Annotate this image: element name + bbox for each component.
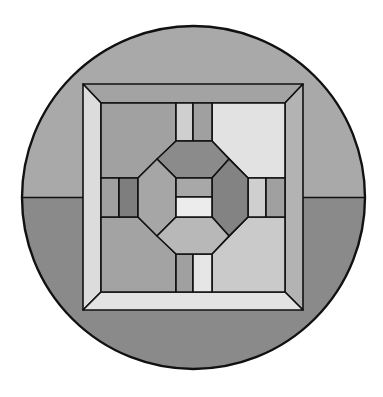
bottom-bar-right	[193, 254, 212, 292]
center-upper	[176, 178, 212, 197]
frame-left	[83, 84, 101, 310]
top-bar-left	[176, 103, 193, 141]
frame-top	[83, 84, 303, 103]
right-bar-outer	[266, 178, 285, 217]
left-bar-inner	[119, 178, 138, 217]
top-bar-right	[193, 103, 212, 141]
center-lower	[176, 197, 212, 217]
frame-bottom	[83, 292, 303, 310]
right-bar-inner	[248, 178, 266, 217]
frame-right	[285, 84, 303, 310]
bottom-bar-left	[176, 254, 193, 292]
left-bar-outer	[101, 178, 119, 217]
stained-glass-illustration	[0, 0, 383, 397]
